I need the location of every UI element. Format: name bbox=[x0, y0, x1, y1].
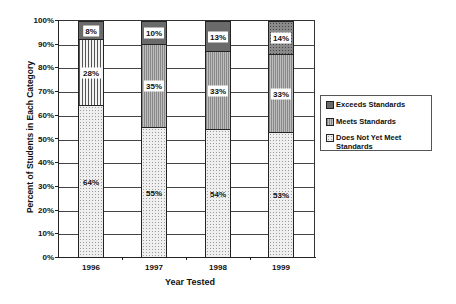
data-label: 54% bbox=[208, 188, 228, 199]
x-tickmark bbox=[186, 257, 187, 260]
data-label: 28% bbox=[81, 67, 101, 78]
data-label: 14% bbox=[271, 33, 291, 44]
segment-does-not-meet: 53% bbox=[268, 132, 294, 258]
legend-label: Does Not Yet Meet Standards bbox=[336, 133, 401, 151]
x-tick-1999: 1999 bbox=[261, 263, 301, 272]
data-label: 33% bbox=[271, 88, 291, 99]
legend-label-line1: Does Not Yet Meet bbox=[336, 133, 401, 142]
data-label: 13% bbox=[208, 31, 228, 42]
x-tickmark bbox=[250, 257, 251, 260]
segment-meets: 33% bbox=[205, 51, 231, 130]
y-tick-100: 100% bbox=[28, 16, 54, 25]
plot-area: 8% 28% 64% 10% 35% 55% 13% bbox=[59, 20, 315, 257]
segment-exceeds: 10% bbox=[141, 21, 167, 45]
y-axis-label: Percent of Students in Each Category bbox=[25, 37, 35, 237]
data-label: 33% bbox=[208, 85, 228, 96]
legend-swatch bbox=[326, 134, 334, 142]
legend-item-exceeds: Exceeds Standards bbox=[326, 100, 405, 109]
legend-label: Meets Standards bbox=[336, 117, 396, 126]
bar-1998: 13% 33% 54% bbox=[205, 21, 231, 258]
x-tick-1996: 1996 bbox=[71, 263, 111, 272]
segment-does-not-meet: 54% bbox=[205, 129, 231, 258]
data-label: 35% bbox=[144, 81, 164, 92]
segment-does-not-meet: 55% bbox=[141, 127, 167, 258]
segment-meets: 28% bbox=[78, 39, 104, 106]
bar-1996: 8% 28% 64% bbox=[78, 21, 104, 258]
y-axis bbox=[58, 20, 59, 258]
segment-meets: 33% bbox=[268, 54, 294, 133]
segment-does-not-meet: 64% bbox=[78, 105, 104, 258]
bar-1997: 10% 35% 55% bbox=[141, 21, 167, 258]
segment-exceeds: 8% bbox=[78, 21, 104, 40]
legend-label-line2: Standards bbox=[336, 142, 373, 151]
x-axis-label: Year Tested bbox=[130, 277, 250, 287]
x-tickmark bbox=[122, 257, 123, 260]
legend-item-does-not-meet: Does Not Yet Meet Standards bbox=[326, 133, 401, 151]
legend-item-meets: Meets Standards bbox=[326, 117, 396, 126]
data-label: 53% bbox=[271, 190, 291, 201]
legend-swatch bbox=[326, 101, 334, 109]
x-tick-1997: 1997 bbox=[134, 263, 174, 272]
legend-label: Exceeds Standards bbox=[336, 100, 405, 109]
data-label: 64% bbox=[81, 176, 101, 187]
x-tick-1998: 1998 bbox=[198, 263, 238, 272]
x-axis bbox=[58, 257, 316, 258]
data-label: 55% bbox=[144, 187, 164, 198]
data-label: 8% bbox=[83, 25, 99, 36]
legend: Exceeds Standards Meets Standards Does N… bbox=[320, 95, 432, 151]
segment-exceeds: 14% bbox=[268, 21, 294, 55]
data-label: 10% bbox=[144, 28, 164, 39]
segment-meets: 35% bbox=[141, 44, 167, 128]
bar-1999: 14% 33% 53% bbox=[268, 21, 294, 258]
y-tick-0: 0% bbox=[28, 253, 54, 262]
segment-exceeds: 13% bbox=[205, 21, 231, 52]
legend-swatch bbox=[326, 118, 334, 126]
